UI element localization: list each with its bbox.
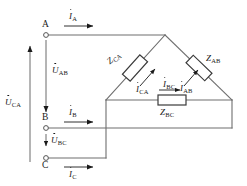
terminal-label-a: A <box>42 20 49 30</box>
terminal-label-c: C <box>42 161 48 171</box>
phase-current-arrow-ica <box>140 69 155 86</box>
voltage-symbol-uca: U <box>5 98 12 107</box>
voltage-symbol-uab: U <box>52 66 59 75</box>
phase-current-label-ibc: IBC <box>163 80 175 89</box>
voltage-symbol-ubc: U <box>51 136 58 145</box>
impedance-box-ca <box>122 55 147 81</box>
terminal-label-b: B <box>42 113 48 123</box>
impedance-box-bc <box>158 95 186 105</box>
phase-current-label-ica: ICA <box>136 85 148 94</box>
current-arrows <box>64 26 93 167</box>
voltage-arrows <box>30 40 46 162</box>
voltage-label-uca: UCA <box>5 98 21 107</box>
current-label-ic: IC <box>69 170 76 179</box>
impedance-label-ab: ZAB <box>206 54 220 63</box>
terminal-b-node <box>44 126 49 131</box>
conductors <box>48 35 232 158</box>
phase-current-label-iab: IAB <box>180 84 192 93</box>
impedance-label-bc: ZBC <box>160 108 174 117</box>
circuit-schematic-svg <box>0 0 247 186</box>
terminal-a-node <box>44 33 49 38</box>
voltage-label-uab: UAB <box>52 66 68 75</box>
voltage-label-ubc: UBC <box>51 136 66 145</box>
circuit-diagram: A B C IA IB IC UAB UBC UCA ZCA ZAB ZBC I… <box>0 0 247 186</box>
current-label-ib: IB <box>69 108 76 117</box>
current-label-ia: IA <box>69 12 77 21</box>
